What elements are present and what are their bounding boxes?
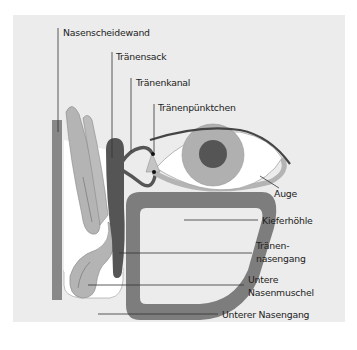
upper-punctum: [151, 152, 155, 156]
label-traenennasengang-line1: Tränen-: [255, 240, 289, 251]
label-unterer-nasengang: Unterer Nasengang: [222, 309, 310, 320]
label-traenenpuenktchen: Tränenpünktchen: [157, 102, 236, 113]
nasal-septum: [52, 120, 62, 300]
label-kieferhoehle: Kieferhöhle: [262, 215, 313, 226]
label-auge: Auge: [274, 188, 298, 199]
label-nasenscheidewand: Nasenscheidewand: [63, 27, 150, 38]
pupil: [199, 140, 227, 168]
lower-punctum: [152, 170, 156, 174]
label-traenennasengang-line2: nasengang: [256, 253, 306, 264]
lacrimal-system-diagram: Nasenscheidewand Tränensack Tränenkanal …: [0, 0, 357, 350]
label-untere-nasenmuschel-line2: Nasenmuschel: [248, 287, 314, 298]
label-traenenkanal: Tränenkanal: [135, 77, 190, 88]
label-traenensack: Tränensack: [115, 51, 167, 62]
label-untere-nasenmuschel-line1: Untere: [248, 274, 279, 285]
